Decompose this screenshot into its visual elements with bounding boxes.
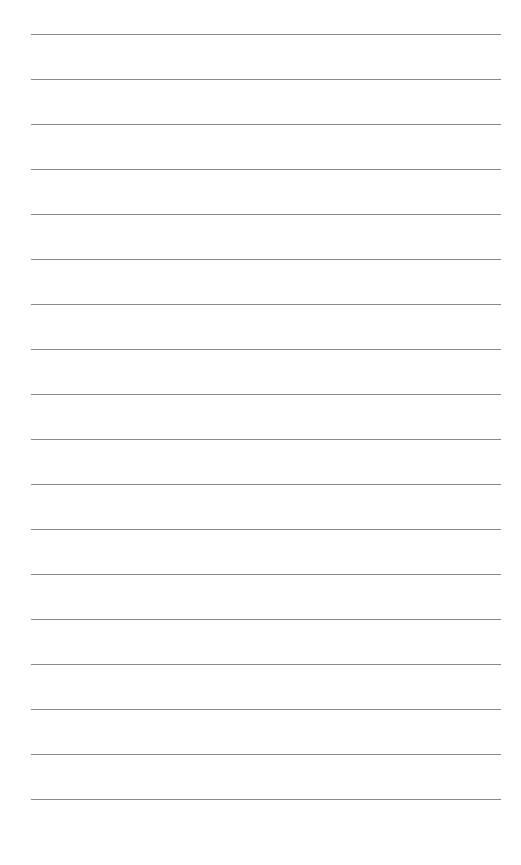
ruled-line — [31, 799, 501, 800]
ruled-line — [31, 169, 501, 170]
ruled-line — [31, 574, 501, 575]
ruled-line — [31, 484, 501, 485]
ruled-line — [31, 259, 501, 260]
ruled-line — [31, 304, 501, 305]
ruled-line — [31, 394, 501, 395]
ruled-line — [31, 79, 501, 80]
ruled-line — [31, 619, 501, 620]
ruled-line — [31, 124, 501, 125]
lined-paper-page — [0, 0, 521, 865]
ruled-line — [31, 34, 501, 35]
ruled-line — [31, 214, 501, 215]
ruled-line — [31, 439, 501, 440]
ruled-line — [31, 664, 501, 665]
ruled-line — [31, 529, 501, 530]
ruled-line — [31, 349, 501, 350]
ruled-line — [31, 709, 501, 710]
ruled-line — [31, 754, 501, 755]
